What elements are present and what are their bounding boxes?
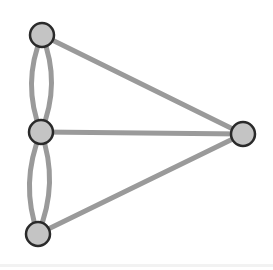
node-bottom (26, 222, 50, 246)
graph-diagram (0, 0, 273, 270)
bottom-divider (0, 264, 273, 267)
edge-middle-bottom-2 (29, 132, 41, 234)
edge-top-middle-1 (41, 35, 52, 132)
edges-group (29, 35, 243, 234)
edge-top-right-4 (42, 35, 243, 134)
node-middle (29, 120, 53, 144)
edge-top-middle-0 (31, 35, 42, 132)
node-right (231, 122, 255, 146)
node-top (30, 23, 54, 47)
edge-bottom-right-6 (38, 134, 243, 234)
edge-middle-right-5 (41, 132, 243, 134)
edge-middle-bottom-3 (38, 132, 50, 234)
